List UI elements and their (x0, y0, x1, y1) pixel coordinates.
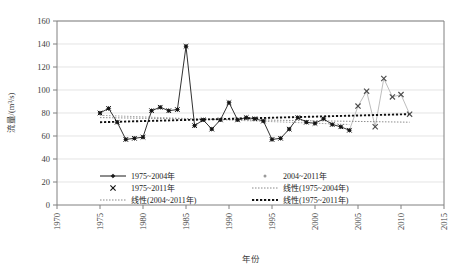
legend-marker-dot (264, 175, 267, 178)
y-axis-tick-label: 0 (46, 200, 50, 210)
x-axis-tick-label: 1975 (95, 213, 105, 230)
legend-item-label: 线性(2004~2011年) (131, 195, 197, 205)
y-axis-tick-label: 160 (37, 16, 50, 26)
x-axis-tick-label: 1980 (138, 213, 148, 230)
x-axis-tick-label: 1990 (224, 213, 234, 230)
legend-item-label: 线性(1975~2011年) (283, 195, 349, 205)
y-axis-tick-label: 80 (42, 108, 51, 118)
y-axis-tick-label: 140 (37, 39, 50, 49)
x-axis-title: 年份 (242, 254, 260, 264)
x-axis-tick-label: 2005 (353, 213, 363, 230)
y-axis-tick-label: 120 (37, 62, 50, 72)
y-axis-tick-label: 100 (37, 85, 50, 95)
chart-canvas: 0204060801001201401601970197519801985199… (0, 0, 460, 268)
y-axis-tick-label: 20 (42, 177, 51, 187)
legend-item-label: 1975~2004年 (131, 171, 175, 181)
y-axis-tick-label: 40 (42, 154, 51, 164)
legend-item-label: 线性(1975~2004年) (283, 183, 349, 193)
legend-item-label: 2004~2011年 (283, 171, 327, 181)
x-axis-tick-label: 1985 (181, 213, 191, 230)
x-axis-tick-label: 2010 (396, 213, 406, 230)
x-axis-tick-label: 2015 (439, 213, 449, 230)
x-axis-tick-label: 1970 (52, 213, 62, 230)
y-axis-title: 流量/(m³/s) (6, 92, 16, 133)
x-axis-tick-label: 1995 (267, 213, 277, 230)
flow-time-series-chart: 0204060801001201401601970197519801985199… (0, 0, 460, 268)
legend-item-label: 1975~2011年 (131, 183, 175, 193)
x-axis-tick-label: 2000 (310, 213, 320, 230)
y-axis-tick-label: 60 (42, 131, 51, 141)
